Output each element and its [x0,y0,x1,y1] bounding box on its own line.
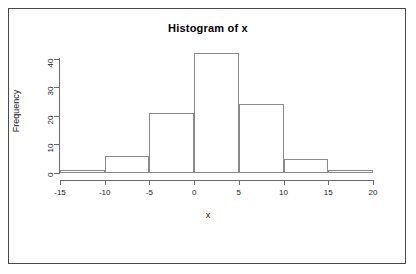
x-tick-5 [239,180,240,185]
histogram-bar [284,159,329,173]
x-tick-20 [373,180,374,185]
y-axis-title: Frequency [11,71,21,151]
y-tick-label-40: 40 [46,58,55,82]
histogram-bar [60,170,105,173]
x-tick-10 [284,180,285,185]
x-tick--15 [60,180,61,185]
y-tick-label-wrap: 10 [26,139,50,149]
x-tick-label--5: -5 [134,188,164,197]
y-tick-30 [54,87,59,88]
plot-area: 010203040 Frequency -15-10-505101520 x [0,0,416,274]
y-tick-label-wrap: 0 [26,168,50,178]
histogram-bar [149,113,194,173]
x-axis-title: x [0,210,416,220]
x-tick-label-5: 5 [224,188,254,197]
x-tick-0 [194,180,195,185]
x-tick-label--10: -10 [90,188,120,197]
x-tick-label-10: 10 [269,188,299,197]
y-tick-40 [54,59,59,60]
x-tick-label-20: 20 [358,188,388,197]
histogram-bar [105,156,150,173]
y-tick-label-10: 10 [46,144,55,168]
x-tick--5 [149,180,150,185]
x-tick-label-0: 0 [179,188,209,197]
y-tick-label-30: 30 [46,87,55,111]
x-axis-line [60,180,374,181]
y-tick-0 [54,173,59,174]
histogram-screenshot: Histogram of x 010203040 Frequency -15-1… [0,0,416,274]
y-tick-label-wrap: 30 [26,82,50,92]
y-tick-label-20: 20 [46,115,55,139]
y-tick-label-wrap: 40 [26,54,50,64]
histogram-bar [328,170,373,173]
y-tick-label-wrap: 20 [26,111,50,121]
y-tick-10 [54,144,59,145]
y-axis-line [59,58,60,174]
histogram-bar [239,104,284,173]
histogram-bar [194,53,239,173]
y-tick-20 [54,116,59,117]
x-tick--10 [105,180,106,185]
x-tick-label-15: 15 [313,188,343,197]
x-tick-15 [328,180,329,185]
x-tick-label--15: -15 [45,188,75,197]
